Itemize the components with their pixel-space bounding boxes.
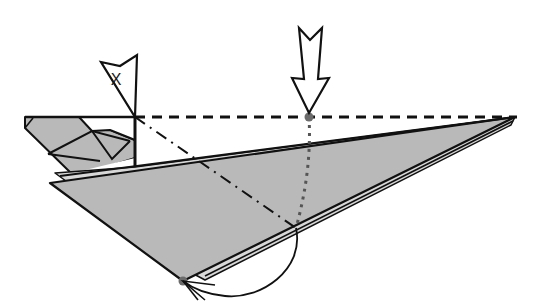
x-pointer-arrow: X [101, 55, 137, 117]
origami-diagram: X [0, 0, 543, 301]
push-down-arrow-icon [292, 28, 329, 113]
x-label: X [111, 71, 122, 88]
